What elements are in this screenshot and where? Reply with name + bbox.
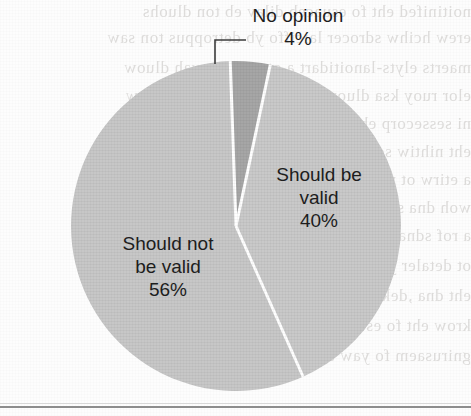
pie-chart-svg	[0, 0, 471, 416]
pie-label-no-opinion-line1: No opinion	[228, 4, 368, 27]
pie-label-should-not-be-valid-line1: Should not	[90, 232, 246, 255]
pie-label-should-be-valid: Should be valid 40%	[258, 163, 380, 232]
pie-label-should-be-valid-value: 40%	[258, 209, 380, 232]
pie-label-should-not-be-valid: Should not be valid 56%	[90, 232, 246, 301]
chart-page: noitinifed eht fo esuaceb dilav eb ton d…	[0, 0, 471, 416]
pie-chart: Should be valid 40% Should not be valid …	[0, 0, 471, 416]
bottom-rule-hairline	[0, 403, 471, 404]
pie-label-no-opinion-value: 4%	[228, 27, 368, 50]
bottom-rule	[0, 406, 471, 408]
pie-label-should-not-be-valid-value: 56%	[90, 278, 246, 301]
pie-label-no-opinion: No opinion 4%	[228, 4, 368, 50]
pie-label-should-be-valid-line1: Should be	[258, 163, 380, 186]
pie-label-should-not-be-valid-line2: be valid	[90, 255, 246, 278]
pie-label-should-be-valid-line2: valid	[258, 186, 380, 209]
